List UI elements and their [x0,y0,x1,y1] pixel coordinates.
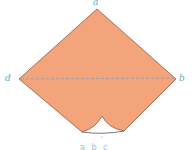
vertex-label-a: a [93,0,98,7]
bottom-base-edge [82,131,124,133]
diagram-canvas [0,0,193,150]
vertex-label-b: b [179,74,185,83]
folded-paper-shape [19,9,176,132]
vertex-label-d: d [5,74,11,83]
diagram-caption: a b c [80,144,109,150]
